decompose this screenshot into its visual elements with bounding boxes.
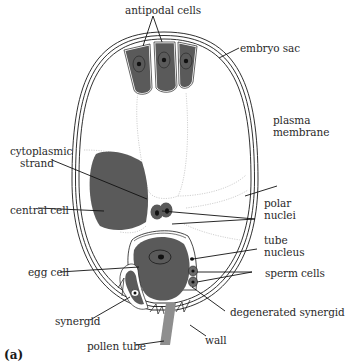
label-cytoplasmic-strand-1: cytoplasmic (10, 145, 72, 157)
label-tube-nucleus-2: nucleus (264, 246, 304, 258)
label-antipodal-cells: antipodal cells (125, 4, 201, 16)
label-wall: wall (205, 334, 227, 346)
panel-label: (a) (4, 348, 23, 362)
label-sperm-cells: sperm cells (265, 267, 325, 279)
label-plasma-membrane-2: membrane (273, 126, 329, 138)
label-degenerated-synergid: degenerated synergid (230, 306, 345, 318)
label-polar-nuclei-2: nuclei (264, 209, 296, 221)
label-pollen-tube: pollen tube (87, 340, 146, 352)
polar-nuclei (151, 203, 173, 220)
label-polar-nuclei-1: polar (264, 197, 291, 209)
label-synergid: synergid (55, 315, 100, 327)
pollen-tube-shape (160, 303, 176, 345)
label-tube-nucleus-1: tube (264, 234, 288, 246)
antipodal-cells (124, 42, 197, 94)
label-central-cell: central cell (10, 204, 69, 216)
label-plasma-membrane-1: plasma (273, 114, 310, 126)
label-embryo-sac: embryo sac (240, 42, 300, 54)
label-egg-cell: egg cell (28, 266, 69, 278)
central-cell-mass (90, 152, 148, 231)
label-cytoplasmic-strand-2: strand (20, 157, 54, 169)
